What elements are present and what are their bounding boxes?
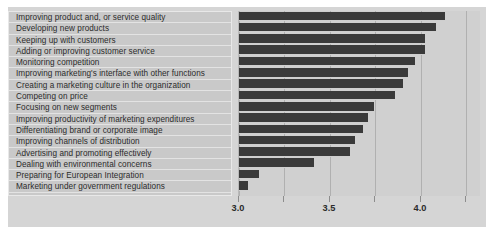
category-label: Marketing under government regulations [9, 181, 231, 192]
bar [239, 57, 415, 67]
axis-tick [238, 196, 239, 202]
axis-tick-label: 3.0 [232, 203, 245, 213]
category-label: Creating a marketing culture in the orga… [9, 80, 231, 91]
bar [239, 45, 425, 55]
bar-row [239, 11, 480, 22]
bar-row [239, 67, 480, 78]
bar-row [239, 180, 480, 191]
axis-tick [465, 196, 466, 202]
bar-row [239, 158, 480, 169]
bar-row [239, 45, 480, 56]
category-label: Preparing for European Integration [9, 170, 231, 181]
bar [239, 136, 355, 146]
bar-row [239, 22, 480, 33]
category-label: Monitoring competition [9, 57, 231, 68]
bar [239, 181, 248, 191]
category-label: Improving product and, or service qualit… [9, 12, 231, 23]
bar [239, 125, 363, 135]
bar-row [239, 101, 480, 112]
bar [239, 34, 425, 44]
category-label: Keeping up with customers [9, 35, 231, 46]
bar [239, 12, 445, 22]
plot-area [238, 11, 480, 196]
bar-row [239, 135, 480, 146]
axis-tick [420, 196, 421, 202]
bar-row [239, 79, 480, 90]
axis-tick [374, 196, 375, 202]
bar-row [239, 147, 480, 158]
bar-row [239, 169, 480, 180]
category-label-panel: Improving product and, or service qualit… [8, 11, 232, 196]
bar [239, 158, 314, 168]
bar [239, 170, 259, 180]
category-label: Dealing with environmental concerns [9, 159, 231, 170]
bar-row [239, 56, 480, 67]
category-label: Improving productivity of marketing expe… [9, 114, 231, 125]
bar-row [239, 124, 480, 135]
category-label: Improving channels of distribution [9, 136, 231, 147]
bar-row [239, 34, 480, 45]
bar [239, 113, 368, 123]
axis-tick-label: 3.5 [323, 203, 336, 213]
bar [239, 147, 350, 157]
category-label: Competing on price [9, 91, 231, 102]
axis-tick-label: 4.0 [414, 203, 427, 213]
category-label: Improving marketing's interface with oth… [9, 68, 231, 79]
axis-tick [283, 196, 284, 202]
bar-series [239, 11, 480, 196]
bar-row [239, 113, 480, 124]
category-label: Adding or improving customer service [9, 46, 231, 57]
category-label: Focusing on new segments [9, 102, 231, 113]
chart-figure: Improving product and, or service qualit… [8, 7, 486, 227]
bar [239, 102, 374, 112]
category-label: Advertising and promoting effectively [9, 148, 231, 159]
bar-row [239, 90, 480, 101]
bar [239, 23, 436, 33]
category-label: Developing new products [9, 23, 231, 34]
bar [239, 91, 395, 101]
bar [239, 79, 403, 89]
bar [239, 68, 408, 78]
x-axis: 3.03.54.0 [238, 196, 480, 222]
axis-tick [329, 196, 330, 202]
category-label: Differentiating brand or corporate image [9, 125, 231, 136]
